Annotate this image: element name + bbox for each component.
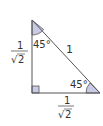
bottom-right-angle-label: 45° [70,79,88,90]
vertical-leg-denominator: 2 [18,54,24,65]
triangle-diagram: 45° 45° 1 1 √ 2 1 √ 2 [0,0,103,126]
right-angle-marker [32,86,39,93]
vertical-leg-numerator: 1 [17,40,23,51]
triangle-outline [32,20,100,93]
horizontal-leg-radical: √ [58,109,65,120]
horizontal-leg-label: 1 √ 2 [58,95,74,120]
hypotenuse-label: 1 [66,43,73,56]
bottom-right-angle-arc [86,83,100,93]
horizontal-leg-numerator: 1 [64,95,70,106]
horizontal-leg-denominator: 2 [65,109,71,120]
top-angle-label: 45° [33,39,51,50]
vertical-leg-radical: √ [11,54,18,65]
vertical-leg-label: 1 √ 2 [11,40,28,65]
